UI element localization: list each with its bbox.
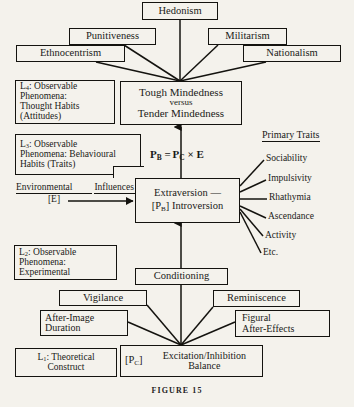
trait-ascendance: Ascendance xyxy=(268,211,314,221)
conditioning-label: Conditioning xyxy=(154,271,209,282)
node-extraversion-introversion: Extraversion — [PB] Introversion xyxy=(135,178,240,223)
excitation-pc-label: [PC] xyxy=(125,355,143,367)
node-reminiscence: Reminiscence xyxy=(213,290,300,307)
node-nationalism: Nationalism xyxy=(243,45,341,62)
reminiscence-label: Reminiscence xyxy=(227,293,286,304)
node-punitiveness-label: Punitiveness xyxy=(86,31,139,42)
node-hedonism-label: Hedonism xyxy=(158,6,201,17)
node-militarism: Militarism xyxy=(208,28,287,45)
node-level2-descriptor: L2: Observable Phenomena: Experimental xyxy=(14,245,117,280)
vigilance-label: Vigilance xyxy=(83,293,123,304)
node-ethnocentrism-label: Ethnocentrism xyxy=(40,48,101,59)
level3-notch xyxy=(113,166,144,178)
node-militarism-label: Militarism xyxy=(225,31,269,42)
trait-sociability: Sociability xyxy=(266,153,307,163)
node-excitation-inhibition-balance: [PC] Excitation/Inhibition Balance xyxy=(120,345,263,377)
node-tough-tender-mindedness: Tough Mindedness versus Tender Mindednes… xyxy=(120,81,242,125)
level1-line2: Construct xyxy=(48,363,85,373)
node-punitiveness: Punitiveness xyxy=(69,28,156,45)
figure-diagram: Hedonism Punitiveness Militarism Ethnoce… xyxy=(0,0,354,407)
environmental-line1: Environmental xyxy=(16,183,92,194)
node-nationalism-label: Nationalism xyxy=(266,48,317,59)
level2-line3: Experimental xyxy=(19,268,70,278)
environmental-line3: [E] xyxy=(16,195,92,205)
node-after-image-duration: After-Image Duration xyxy=(40,310,128,336)
trait-rhathymia: Rhathymia xyxy=(269,192,311,202)
node-vigilance: Vigilance xyxy=(59,290,147,306)
figural-line2: After-Effects xyxy=(242,324,294,334)
node-conditioning: Conditioning xyxy=(135,268,228,285)
node-level4-descriptor: L4: Observable Phenomena: Thought Habits… xyxy=(15,80,115,124)
excitation-line2: Balance xyxy=(188,361,220,371)
figural-line1: Figural xyxy=(242,313,271,323)
extraversion-line1: Extraversion — xyxy=(154,188,221,199)
node-level1-descriptor: L1: Theoretical Construct xyxy=(15,348,117,377)
trait-etc: Etc. xyxy=(263,247,278,257)
node-hedonism: Hedonism xyxy=(142,2,218,20)
after-image-line2: Duration xyxy=(45,323,81,333)
trait-activity: Activity xyxy=(265,230,296,240)
tender-mindedness-label: Tender Mindedness xyxy=(138,108,224,119)
formula-pb-equals: PB = PC × E xyxy=(150,149,204,161)
node-ethnocentrism: Ethnocentrism xyxy=(16,45,125,62)
node-figural-after-effects: Figural After-Effects xyxy=(235,310,330,337)
figure-caption: FIGURE 15 xyxy=(0,386,354,395)
trait-impulsivity: Impulsivity xyxy=(268,173,312,183)
level3-line3: Habits (Traits) xyxy=(20,160,75,170)
extraversion-line2: [PB] Introversion xyxy=(152,201,224,213)
level4-line4: (Attitudes) xyxy=(20,112,61,122)
primary-traits-header: Primary Traits xyxy=(262,130,320,142)
